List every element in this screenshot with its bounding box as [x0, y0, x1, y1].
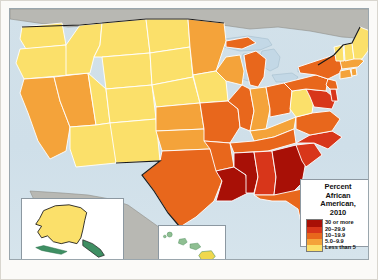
state-ID	[66, 23, 102, 75]
state-RI	[351, 68, 357, 76]
legend-swatch-less-than-5	[307, 245, 322, 251]
hawaii-inset-map	[159, 226, 225, 260]
state-MO	[200, 101, 240, 143]
state-OR	[16, 45, 70, 79]
map-frame: Percent African American, 2010 30 or mor…	[9, 8, 369, 260]
legend-swatch-column	[306, 219, 323, 252]
state-OH	[266, 83, 292, 117]
island-kauai	[167, 232, 172, 237]
island-molokai-maui	[190, 243, 201, 250]
hawaii-inset	[158, 225, 226, 260]
state-NM	[110, 119, 160, 163]
state-CT	[340, 69, 352, 79]
alaska-inset-map	[22, 199, 123, 260]
legend-scale: 30 or more 20–29.9 10–19.9 5.0–9.9 Less …	[304, 219, 369, 252]
island-oahu	[178, 238, 187, 245]
legend-title: Percent African American, 2010	[304, 183, 369, 217]
alaska-panhandle	[83, 240, 105, 257]
map-legend: Percent African American, 2010 30 or mor…	[300, 179, 369, 247]
legend-label-column: 30 or more 20–29.9 10–19.9 5.0–9.9 Less …	[325, 219, 356, 250]
island-niihau	[163, 235, 166, 238]
choropleth-map-figure: Percent African American, 2010 30 or mor…	[0, 0, 378, 280]
alaska-inset	[21, 198, 124, 260]
state-AK	[36, 205, 87, 244]
legend-label-less-than-5: Less than 5	[325, 244, 356, 250]
state-NJ	[326, 79, 338, 89]
state-KS	[156, 103, 204, 131]
legend-title-line-4: 2010	[304, 209, 369, 218]
map-figure-page: Percent African American, 2010 30 or mor…	[0, 0, 378, 280]
state-OK	[156, 129, 210, 151]
island-hawaii-big-island	[199, 251, 216, 260]
state-WY	[102, 53, 152, 89]
state-CO	[106, 85, 156, 123]
aleutian-islands	[36, 246, 67, 255]
